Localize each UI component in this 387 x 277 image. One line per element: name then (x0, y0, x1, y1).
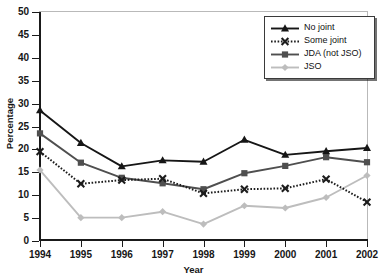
series-no-joint (36, 106, 371, 169)
square-marker (241, 170, 247, 176)
legend-item-jda-not-jso[interactable]: JDA (not JSO) (270, 47, 369, 60)
legend-key-plus-icon (270, 60, 300, 73)
legend-key-square-icon (270, 47, 300, 60)
plus-marker (241, 202, 248, 209)
plus-marker (281, 64, 288, 71)
legend-label: No joint (300, 21, 335, 34)
square-marker (282, 163, 288, 169)
legend-item-some-joint[interactable]: Some joint (270, 34, 369, 47)
series-line (40, 170, 367, 224)
square-marker (37, 130, 43, 136)
square-marker (364, 159, 370, 165)
plus-marker (323, 194, 330, 201)
chart-legend: No jointSome jointJDA (not JSO)JSO (264, 16, 375, 79)
line-chart: 05101520253035404550 1994199519961997199… (0, 0, 387, 277)
series-jso (36, 166, 370, 227)
legend-label: Some joint (300, 34, 347, 47)
square-marker (78, 160, 84, 166)
x-axis-title: Year (0, 264, 387, 275)
legend-item-jso[interactable]: JSO (270, 60, 369, 73)
legend-label: JSO (300, 60, 322, 73)
legend-key-triangle-icon (270, 21, 300, 34)
square-marker (323, 154, 329, 160)
triangle-marker (36, 106, 44, 113)
x-marker (37, 148, 44, 155)
x-marker (364, 199, 371, 206)
legend-item-no-joint[interactable]: No joint (270, 21, 369, 34)
plus-marker (159, 208, 166, 215)
plus-marker (282, 204, 289, 211)
plus-marker (363, 172, 370, 179)
square-marker (282, 51, 288, 57)
x-marker (323, 176, 330, 183)
x-marker (282, 38, 289, 45)
plus-marker (200, 220, 207, 227)
legend-key-x-icon (270, 34, 300, 47)
plus-marker (118, 214, 125, 221)
y-axis-title: Percentage (4, 82, 15, 166)
triangle-marker (240, 136, 248, 143)
series-some-joint (37, 148, 371, 205)
legend-label: JDA (not JSO) (300, 47, 362, 60)
